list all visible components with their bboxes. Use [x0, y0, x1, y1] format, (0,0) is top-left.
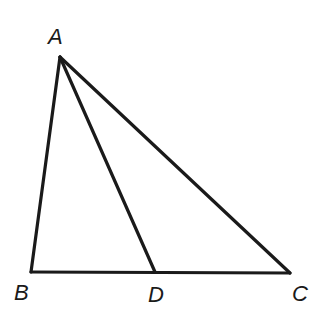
triangle-diagram: A B D C — [0, 0, 323, 325]
vertex-label-a: A — [46, 24, 63, 49]
vertex-label-b: B — [14, 280, 29, 305]
segment-ad — [60, 57, 155, 272]
vertex-label-c: C — [292, 281, 308, 306]
segment-ac — [60, 57, 290, 273]
segment-bc — [31, 272, 290, 273]
segment-ab — [31, 57, 60, 272]
point-label-d: D — [148, 282, 164, 307]
